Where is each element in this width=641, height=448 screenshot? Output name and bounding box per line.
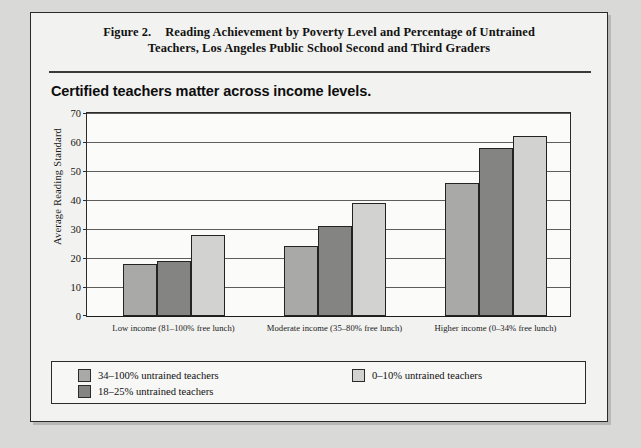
figure-frame: Figure 2.Reading Achievement by Poverty … bbox=[30, 12, 608, 422]
y-axis-tick-mark bbox=[83, 287, 87, 288]
chart-legend: 34–100% untrained teachers18–25% untrain… bbox=[51, 361, 586, 404]
legend-column-left: 34–100% untrained teachers18–25% untrain… bbox=[78, 368, 219, 400]
y-axis-tick-label: 30 bbox=[71, 224, 82, 235]
x-axis-tick-label: Moderate income (35–80% free lunch) bbox=[267, 323, 402, 333]
legend-label: 0–10% untrained teachers bbox=[372, 370, 482, 381]
bar-group bbox=[445, 113, 547, 316]
bar[interactable] bbox=[445, 183, 479, 316]
bar[interactable] bbox=[157, 261, 191, 316]
legend-item[interactable]: 0–10% untrained teachers bbox=[352, 368, 482, 383]
scanned-page: Figure 2.Reading Achievement by Poverty … bbox=[0, 0, 641, 448]
y-axis-tick-label: 0 bbox=[76, 311, 81, 322]
y-axis-label: Average Reading Standard bbox=[52, 97, 63, 277]
bar[interactable] bbox=[513, 136, 547, 316]
y-axis-tick-mark bbox=[83, 142, 87, 143]
legend-item[interactable]: 34–100% untrained teachers bbox=[78, 368, 219, 383]
x-axis-tick-label: Higher income (0–34% free lunch) bbox=[435, 323, 557, 333]
y-axis-tick-mark bbox=[83, 229, 87, 230]
y-axis-tick-label: 40 bbox=[71, 195, 82, 206]
legend-swatch-icon bbox=[78, 385, 91, 398]
y-axis-tick-label: 70 bbox=[71, 108, 82, 119]
y-axis-tick-mark bbox=[83, 315, 87, 316]
bar[interactable] bbox=[191, 235, 225, 316]
y-axis-tick-mark bbox=[83, 258, 87, 259]
x-axis-tick-label: Low income (81–100% free lunch) bbox=[112, 323, 234, 333]
y-axis-tick-label: 60 bbox=[71, 137, 82, 148]
bar[interactable] bbox=[479, 148, 513, 316]
plot-area: 010203040506070Low income (81–100% free … bbox=[86, 112, 571, 317]
y-axis-tick-label: 50 bbox=[71, 166, 82, 177]
bar-group bbox=[284, 113, 386, 316]
legend-swatch-icon bbox=[352, 369, 365, 382]
y-axis-tick-mark bbox=[83, 113, 87, 114]
legend-label: 18–25% untrained teachers bbox=[98, 386, 213, 397]
legend-column-right: 0–10% untrained teachers bbox=[352, 368, 482, 384]
legend-label: 34–100% untrained teachers bbox=[98, 370, 219, 381]
y-axis-tick-label: 20 bbox=[71, 253, 82, 264]
y-axis-tick-mark bbox=[83, 171, 87, 172]
bar[interactable] bbox=[352, 203, 386, 316]
legend-item[interactable]: 18–25% untrained teachers bbox=[78, 384, 219, 399]
y-axis-tick-label: 10 bbox=[71, 282, 82, 293]
bar[interactable] bbox=[123, 264, 157, 316]
bar[interactable] bbox=[318, 226, 352, 316]
bar[interactable] bbox=[284, 246, 318, 316]
bar-group bbox=[123, 113, 225, 316]
y-axis-tick-mark bbox=[83, 200, 87, 201]
legend-swatch-icon bbox=[78, 369, 91, 382]
